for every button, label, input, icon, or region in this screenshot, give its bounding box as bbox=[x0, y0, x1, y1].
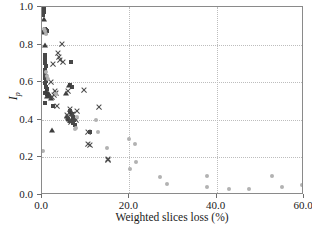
data-point-dot bbox=[270, 174, 274, 178]
data-point-dot bbox=[134, 160, 138, 164]
data-point-triangle bbox=[42, 42, 48, 47]
data-point-cross bbox=[54, 102, 61, 109]
data-point-cross bbox=[96, 103, 103, 110]
y-axis-title: Ip bbox=[6, 76, 22, 116]
data-point-dot bbox=[96, 130, 100, 134]
data-point-dot bbox=[44, 32, 48, 36]
data-point-cross bbox=[80, 87, 87, 94]
data-point-dot bbox=[205, 185, 209, 189]
gridline-horizontal bbox=[42, 82, 302, 83]
y-tick-mark bbox=[37, 81, 41, 82]
data-point-cross bbox=[60, 59, 67, 66]
x-tick-mark bbox=[216, 194, 217, 198]
data-point-cross bbox=[73, 108, 80, 115]
gridline-horizontal bbox=[42, 45, 302, 46]
plot-area bbox=[41, 6, 303, 194]
x-tick-label: 20.0 bbox=[119, 199, 138, 211]
x-tick-mark bbox=[41, 194, 42, 198]
data-point-dot bbox=[227, 187, 231, 191]
data-point-cross bbox=[49, 61, 56, 68]
gridline-vertical bbox=[129, 7, 130, 193]
data-point-cross bbox=[86, 142, 93, 149]
x-tick-mark bbox=[303, 194, 304, 198]
gridline-vertical bbox=[217, 7, 218, 193]
data-point-dot bbox=[105, 146, 109, 150]
y-axis-title-base: I bbox=[6, 96, 20, 100]
y-tick-label: 0.0 bbox=[2, 188, 33, 200]
y-tick-label: 1.0 bbox=[2, 0, 33, 12]
y-tick-mark bbox=[37, 156, 41, 157]
data-point-dot bbox=[247, 187, 251, 191]
data-point-dot bbox=[127, 137, 131, 141]
data-point-dot bbox=[158, 175, 162, 179]
data-point-dot bbox=[300, 183, 303, 187]
x-tick-label: 60.0 bbox=[293, 199, 312, 211]
x-tick-label: 40.0 bbox=[206, 199, 225, 211]
data-point-dot bbox=[75, 115, 79, 119]
data-point-dot bbox=[128, 167, 132, 171]
data-point-cross bbox=[84, 129, 91, 136]
y-tick-mark bbox=[37, 44, 41, 45]
data-point-cross bbox=[64, 87, 71, 94]
data-point-dot bbox=[41, 149, 45, 153]
data-point-dot bbox=[46, 77, 50, 81]
data-point-square bbox=[69, 60, 73, 64]
data-point-triangle bbox=[41, 17, 47, 22]
x-tick-mark bbox=[128, 194, 129, 198]
data-point-dot bbox=[94, 118, 98, 122]
data-point-dot bbox=[165, 182, 169, 186]
y-tick-mark bbox=[37, 194, 41, 195]
y-axis-title-subscript: p bbox=[13, 92, 22, 96]
x-tick-label: 0.0 bbox=[34, 199, 48, 211]
data-point-triangle bbox=[49, 128, 55, 133]
data-point-cross bbox=[59, 40, 66, 47]
data-point-dot bbox=[54, 92, 58, 96]
gridline-horizontal bbox=[42, 120, 302, 121]
y-tick-label: 0.2 bbox=[2, 150, 33, 162]
data-point-dot bbox=[280, 185, 284, 189]
scatter-chart-figure: 0.020.040.060.00.00.20.40.60.81.0 Weight… bbox=[0, 0, 312, 230]
y-tick-mark bbox=[37, 119, 41, 120]
data-point-dot bbox=[205, 174, 209, 178]
data-point-square bbox=[43, 101, 47, 105]
y-tick-mark bbox=[37, 6, 41, 7]
x-axis-title: Weighted slices loss (%) bbox=[41, 211, 303, 223]
data-point-cross bbox=[105, 157, 112, 164]
data-point-dot bbox=[133, 142, 137, 146]
y-tick-label: 0.8 bbox=[2, 38, 33, 50]
gridline-horizontal bbox=[42, 157, 302, 158]
data-point-dot bbox=[73, 127, 77, 131]
